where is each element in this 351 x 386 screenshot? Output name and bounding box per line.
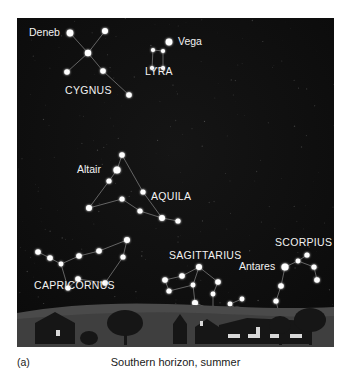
sky-panel: DenebCYGNUSVegaLYRAAltairAQUILACAPRICORN… bbox=[17, 18, 334, 347]
faint-star bbox=[269, 206, 270, 207]
faint-star bbox=[219, 302, 220, 303]
star-deneb bbox=[67, 30, 74, 37]
star-sgr-mid bbox=[191, 283, 196, 288]
faint-star bbox=[333, 84, 334, 85]
faint-star bbox=[182, 182, 183, 183]
faint-star bbox=[94, 74, 95, 75]
faint-star bbox=[209, 202, 210, 203]
faint-star bbox=[228, 292, 229, 293]
faint-star bbox=[104, 102, 105, 103]
faint-star bbox=[219, 240, 220, 241]
faint-star bbox=[43, 303, 44, 304]
faint-star bbox=[117, 94, 118, 95]
faint-star bbox=[303, 229, 304, 230]
star-albireo bbox=[126, 92, 132, 98]
star-sgr-top bbox=[196, 264, 202, 270]
window-light bbox=[228, 334, 240, 338]
faint-star bbox=[141, 251, 142, 252]
faint-star bbox=[41, 221, 42, 222]
faint-star bbox=[116, 36, 117, 37]
faint-star bbox=[182, 134, 183, 135]
faint-star bbox=[201, 243, 202, 244]
constellation-label-scorpius: SCORPIUS bbox=[275, 236, 332, 248]
faint-star bbox=[92, 32, 93, 33]
faint-star bbox=[286, 22, 287, 23]
faint-star bbox=[118, 138, 119, 139]
faint-star bbox=[161, 294, 162, 295]
horizon-landscape bbox=[17, 303, 334, 347]
faint-star bbox=[202, 146, 203, 147]
star-sgr-w2 bbox=[162, 277, 168, 283]
faint-star bbox=[32, 284, 33, 285]
faint-star bbox=[274, 65, 275, 66]
faint-star bbox=[115, 183, 116, 184]
star-aql-low bbox=[137, 208, 142, 213]
faint-star bbox=[98, 211, 99, 212]
faint-star bbox=[110, 160, 111, 161]
star-cap-ne bbox=[124, 237, 130, 243]
faint-star bbox=[110, 118, 111, 119]
faint-star bbox=[298, 87, 299, 88]
faint-star bbox=[86, 80, 87, 81]
faint-star bbox=[176, 279, 177, 280]
faint-star bbox=[33, 277, 34, 278]
star-cyg-center bbox=[85, 50, 91, 56]
faint-star bbox=[157, 140, 158, 141]
star-cap-n2 bbox=[96, 248, 102, 254]
faint-star bbox=[290, 28, 291, 29]
star-cap-w1 bbox=[35, 249, 41, 255]
faint-star bbox=[130, 215, 131, 216]
star-aql-se bbox=[159, 215, 165, 221]
faint-star bbox=[93, 140, 94, 141]
faint-star bbox=[176, 299, 177, 300]
faint-star bbox=[159, 101, 160, 102]
faint-star bbox=[332, 304, 333, 305]
faint-star bbox=[156, 153, 157, 154]
star-label-antares: Antares bbox=[239, 260, 275, 272]
faint-star bbox=[249, 235, 250, 236]
faint-star bbox=[227, 135, 228, 136]
faint-star bbox=[32, 150, 33, 151]
faint-star bbox=[261, 221, 262, 222]
faint-star bbox=[99, 203, 100, 204]
faint-star bbox=[81, 143, 82, 144]
faint-star bbox=[49, 68, 50, 69]
faint-star bbox=[21, 158, 22, 159]
faint-star bbox=[169, 24, 170, 25]
star-lyr-ne bbox=[161, 49, 165, 53]
faint-star bbox=[213, 201, 214, 202]
window-light bbox=[200, 321, 203, 326]
faint-star bbox=[33, 56, 34, 57]
faint-star bbox=[333, 126, 334, 127]
faint-star bbox=[262, 41, 263, 42]
faint-star bbox=[180, 172, 181, 173]
faint-star bbox=[272, 67, 273, 68]
faint-star bbox=[155, 24, 156, 25]
faint-star bbox=[177, 93, 178, 94]
star-label-vega: Vega bbox=[178, 35, 202, 47]
faint-star bbox=[229, 180, 231, 182]
faint-star bbox=[201, 61, 202, 62]
caption-text: Southern horizon, summer bbox=[0, 356, 351, 368]
constellation-label-capricornus: CAPRICORNUS bbox=[34, 279, 115, 291]
faint-star bbox=[204, 121, 205, 122]
faint-star bbox=[38, 187, 39, 188]
faint-star bbox=[306, 135, 307, 136]
faint-star bbox=[230, 213, 231, 214]
star-lyr-nw bbox=[151, 48, 155, 52]
star-aql-top bbox=[119, 152, 125, 158]
star-sgr-w1 bbox=[179, 273, 185, 279]
faint-star bbox=[214, 97, 215, 98]
star-cyg-e bbox=[100, 68, 106, 74]
faint-star bbox=[19, 292, 20, 293]
star-sgr-w3 bbox=[166, 288, 171, 293]
faint-star bbox=[237, 114, 238, 115]
faint-star bbox=[294, 206, 295, 207]
faint-star bbox=[217, 32, 218, 33]
faint-star bbox=[294, 80, 295, 81]
constellation-label-aquila: AQUILA bbox=[151, 190, 191, 202]
faint-star bbox=[22, 221, 23, 222]
faint-star bbox=[135, 291, 136, 292]
faint-star bbox=[257, 300, 258, 301]
faint-star bbox=[121, 106, 122, 107]
